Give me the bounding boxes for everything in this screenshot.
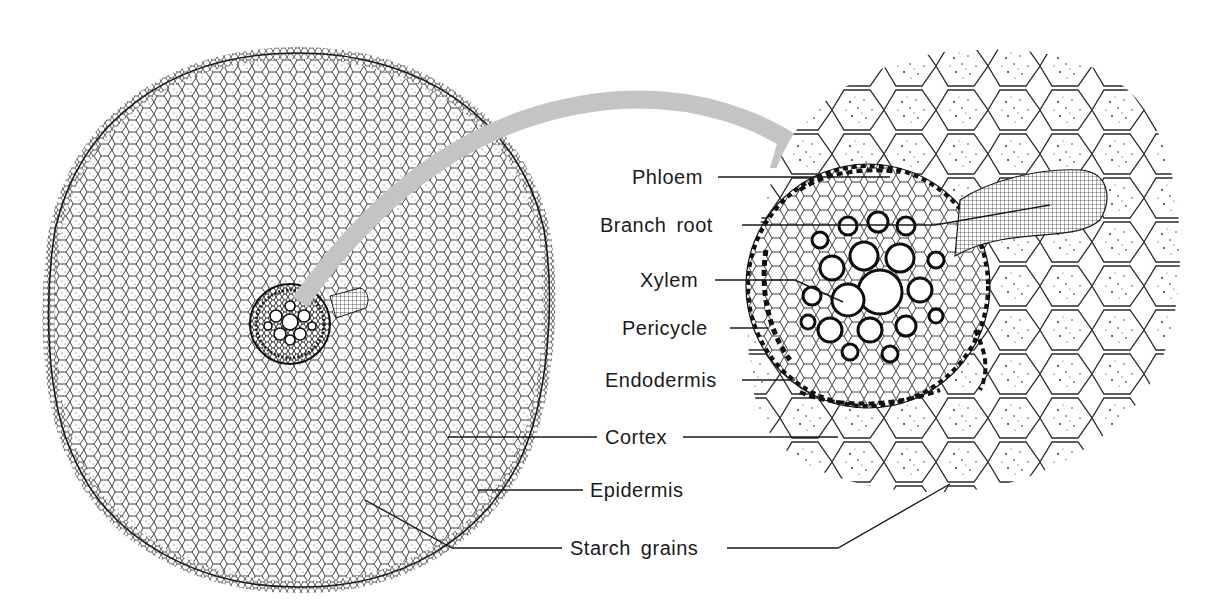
label-pericycle: Pericycle [622, 318, 708, 338]
label-cortex: Cortex [605, 427, 667, 447]
label-xylem: Xylem [640, 270, 698, 290]
label-starch-grains: Starch grains [570, 538, 698, 558]
starch-grains-leader-right [727, 484, 950, 548]
label-endodermis: Endodermis [605, 370, 717, 390]
figure-canvas: Phloem Branch root Xylem Pericycle Endod… [0, 0, 1221, 610]
label-branch-root: Branch root [600, 215, 713, 235]
label-epidermis: Epidermis [590, 480, 683, 500]
stele-detail [740, 40, 1200, 500]
root-cross-section-illustration [0, 0, 1221, 610]
label-phloem: Phloem [632, 167, 703, 187]
